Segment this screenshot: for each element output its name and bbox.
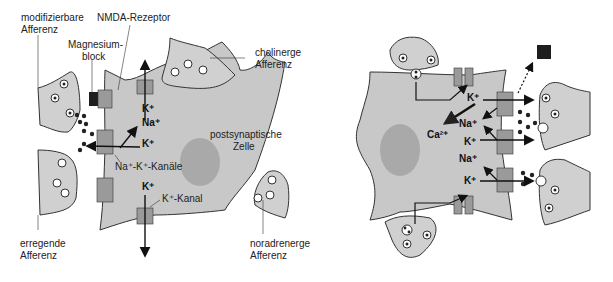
label-postsynaptic-2: Zelle xyxy=(233,141,255,152)
diagram-canvas: modifizierbare Afferenz NMDA-Rezeptor Ma… xyxy=(0,0,613,282)
label-cholinergic-1: cholinerge xyxy=(255,47,302,58)
presynaptic-terminal-top xyxy=(390,37,438,70)
label-nmda-receptor: NMDA-Rezeptor xyxy=(97,12,171,23)
label-postsynaptic-1: postsynaptische xyxy=(210,129,282,140)
nucleus-right xyxy=(380,124,420,176)
label-magnesium-1: Magnesium- xyxy=(68,39,123,50)
na-k-channel-lower xyxy=(97,178,113,202)
right-panel: K⁺ Ca²⁺ Na⁺ K⁺ Na⁺ K⁺ xyxy=(356,37,590,257)
label-excitatory-1: erregende xyxy=(20,238,66,249)
label-excitatory-2: Afferenz xyxy=(20,250,57,261)
ion-na-2: Na⁺ xyxy=(459,153,477,164)
nmda-receptor xyxy=(98,90,112,108)
ion-ca: Ca²⁺ xyxy=(427,129,448,140)
label-na-k-channels: Na⁺-K⁺-Kanäle xyxy=(115,161,183,172)
label-modifiable-afferent-2: Afferenz xyxy=(21,24,58,35)
presynaptic-terminal-right-lower xyxy=(539,159,590,225)
na-k-channel xyxy=(97,130,113,154)
presynaptic-terminal-right-upper xyxy=(539,82,590,150)
postsynaptic-cell-right xyxy=(356,70,512,220)
label-cholinergic-2: Afferenz xyxy=(255,59,292,70)
left-panel: modifizierbare Afferenz NMDA-Rezeptor Ma… xyxy=(20,12,310,261)
ion-na-mid: Na⁺ xyxy=(142,117,160,128)
ion-k-top: K⁺ xyxy=(142,103,154,114)
ion-k-mid: K⁺ xyxy=(142,138,154,149)
transmitter-dots-right xyxy=(518,110,537,186)
label-noradrenergic-2: Afferenz xyxy=(250,250,287,261)
label-modifiable-afferent-1: modifizierbare xyxy=(21,12,84,23)
label-noradrenergic-1: noradrenerge xyxy=(250,238,310,249)
ion-k-bottom: K⁺ xyxy=(142,181,154,192)
label-k-channel: K⁺-Kanal xyxy=(162,193,203,204)
ion-na-1: Na⁺ xyxy=(459,118,477,129)
ion-k-3: K⁺ xyxy=(464,175,476,186)
transmitter-molecule xyxy=(537,45,551,59)
ion-k-2: K⁺ xyxy=(464,136,476,147)
modifiable-afferent-terminal xyxy=(38,72,80,132)
nucleus xyxy=(180,138,220,186)
ion-k-1: K⁺ xyxy=(467,92,479,103)
label-magnesium-2: block xyxy=(82,51,106,62)
